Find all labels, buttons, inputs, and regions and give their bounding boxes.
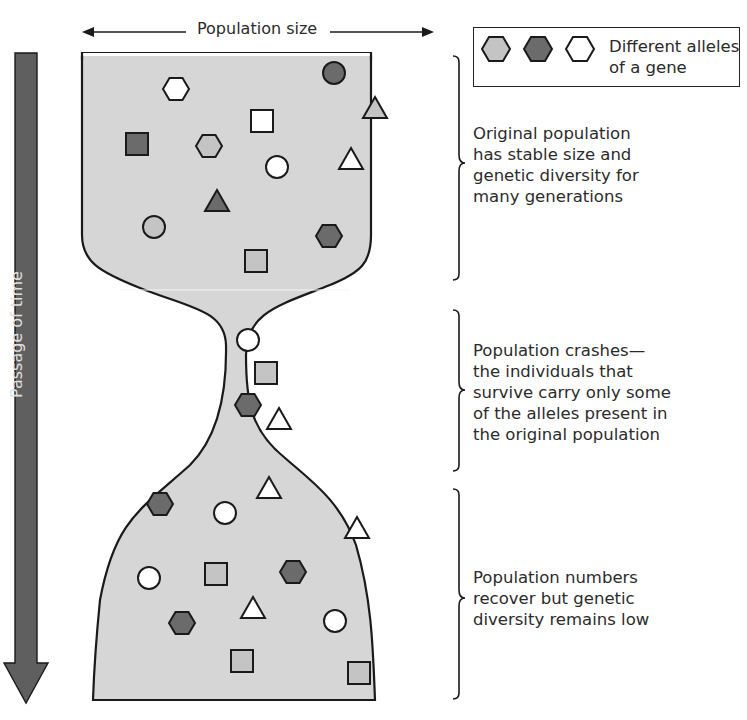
individual-square-light [231, 650, 253, 672]
individual-hexagon-dark [147, 493, 173, 515]
braces [453, 56, 465, 699]
label-line: Population numbers [473, 567, 649, 588]
individual-square-white [251, 110, 273, 132]
label-line: has stable size and [473, 144, 639, 165]
population-size-label: Population size [197, 19, 317, 38]
label-line: of the alleles present in [473, 403, 671, 424]
stage-label-recovery: Population numbers recover but genetic d… [473, 567, 649, 630]
label-line: Original population [473, 123, 639, 144]
brace-recovery [453, 489, 465, 699]
individual-circle-white [237, 329, 259, 351]
individual-square-light [348, 662, 370, 684]
label-line: genetic diversity for [473, 165, 639, 186]
individual-hexagon-dark [235, 394, 261, 416]
arrow-right-icon [422, 27, 434, 37]
label-line: the original population [473, 424, 671, 445]
individual-circle-white [266, 156, 288, 178]
stage-label-bottleneck: Population crashes— the individuals that… [473, 340, 671, 445]
top-edge [76, 53, 378, 56]
individual-circle-dark [323, 62, 345, 84]
individual-circle-white [324, 610, 346, 632]
individual-hexagon-dark [280, 561, 306, 583]
individual-square-light [205, 563, 227, 585]
label-line: survive carry only some [473, 382, 671, 403]
individual-square-light [245, 250, 267, 272]
legend-line-2: of a gene [609, 57, 739, 78]
label-line: the individuals that [473, 361, 671, 382]
passage-of-time-label: Passage of time [7, 271, 26, 398]
individual-hexagon-light [196, 135, 222, 157]
individual-hexagon-white [163, 78, 189, 100]
individual-circle-white [214, 502, 236, 524]
legend-text: Different alleles of a gene [609, 36, 739, 78]
individual-circle-white [138, 567, 160, 589]
label-line: recover but genetic [473, 588, 649, 609]
arrow-left-icon [82, 27, 94, 37]
brace-bottleneck [453, 310, 465, 471]
stage-label-original: Original population has stable size and … [473, 123, 639, 207]
individual-square-light [255, 362, 277, 384]
label-line: diversity remains low [473, 609, 649, 630]
legend-line-1: Different alleles [609, 36, 739, 57]
brace-original [453, 56, 465, 280]
individual-square-dark [126, 133, 148, 155]
label-line: many generations [473, 186, 639, 207]
individual-triangle-white [267, 408, 291, 429]
individual-circle-light [143, 216, 165, 238]
individual-hexagon-dark [316, 225, 342, 247]
label-line: Population crashes— [473, 340, 671, 361]
individual-hexagon-dark [169, 612, 195, 634]
